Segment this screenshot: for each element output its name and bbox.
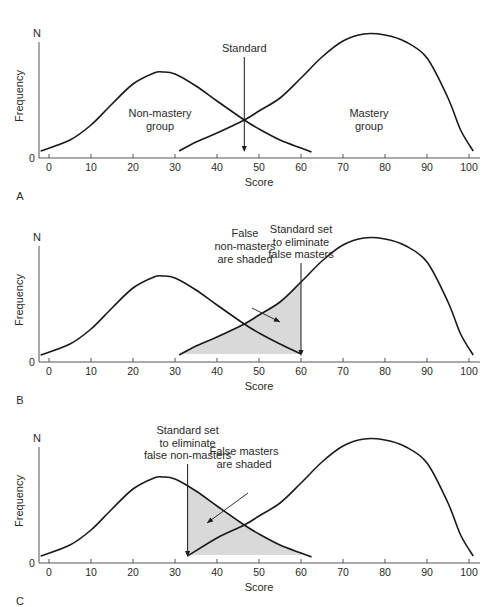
x-tick-label: 20 xyxy=(127,566,139,578)
y-axis-label: Frequency xyxy=(13,475,25,527)
standard-label: false masters xyxy=(268,248,334,260)
x-tick-label: 90 xyxy=(421,161,433,173)
x-tick-label: 10 xyxy=(85,161,97,173)
standard-label: Standard set xyxy=(270,223,332,235)
x-tick-label: 30 xyxy=(169,365,181,377)
x-tick-label: 30 xyxy=(169,161,181,173)
panel-letter: B xyxy=(16,394,23,406)
panel-letter: A xyxy=(16,190,24,202)
x-tick-label: 40 xyxy=(211,161,223,173)
x-tick-label: 80 xyxy=(379,161,391,173)
x-tick-label: 60 xyxy=(295,566,307,578)
x-tick-label: 90 xyxy=(421,365,433,377)
x-tick-label: 0 xyxy=(46,566,52,578)
x-tick-label: 20 xyxy=(127,161,139,173)
x-tick-label: 70 xyxy=(337,566,349,578)
shaded-region xyxy=(179,282,301,355)
x-tick-label: 40 xyxy=(211,365,223,377)
x-tick-label: 90 xyxy=(421,566,433,578)
x-tick-label: 70 xyxy=(337,161,349,173)
shading-label: False xyxy=(232,227,259,239)
y-top-label: N xyxy=(33,27,41,39)
x-tick-label: 100 xyxy=(460,161,478,173)
standard-arrow-icon xyxy=(242,146,247,152)
standard-label: Standard set xyxy=(156,424,218,436)
y-zero-label: 0 xyxy=(29,152,35,164)
y-zero-label: 0 xyxy=(29,557,35,569)
x-tick-label: 80 xyxy=(379,365,391,377)
series-label: Non-mastery xyxy=(129,107,192,119)
chart-panel-c: 0102030405060708090100N0FrequencyScoreCS… xyxy=(13,424,480,607)
standard-label: Standard xyxy=(222,42,267,54)
standard-label: to eliminate xyxy=(273,236,329,248)
y-zero-label: 0 xyxy=(29,356,35,368)
x-axis-label: Score xyxy=(245,380,274,392)
x-axis-label: Score xyxy=(245,176,274,188)
x-axis-label: Score xyxy=(245,581,274,593)
x-tick-label: 0 xyxy=(46,365,52,377)
y-axis-label: Frequency xyxy=(13,70,25,122)
x-tick-label: 0 xyxy=(46,161,52,173)
x-tick-label: 40 xyxy=(211,566,223,578)
x-tick-label: 50 xyxy=(253,365,265,377)
x-tick-label: 20 xyxy=(127,365,139,377)
x-tick-label: 30 xyxy=(169,566,181,578)
series-label: group xyxy=(355,120,383,132)
chart-panel-a: 0102030405060708090100N0FrequencyScoreAN… xyxy=(13,27,480,202)
x-tick-label: 60 xyxy=(295,161,307,173)
shading-label: non-masters xyxy=(214,240,276,252)
x-tick-label: 50 xyxy=(253,566,265,578)
series-label: group xyxy=(146,120,174,132)
y-top-label: N xyxy=(33,432,41,444)
x-tick-label: 100 xyxy=(460,365,478,377)
x-tick-label: 80 xyxy=(379,566,391,578)
shading-label: False masters xyxy=(209,445,279,457)
shading-label: are shaded xyxy=(217,253,272,265)
x-tick-label: 60 xyxy=(295,365,307,377)
standard-label: to eliminate xyxy=(159,437,215,449)
x-tick-label: 10 xyxy=(85,365,97,377)
x-tick-label: 70 xyxy=(337,365,349,377)
figure: 0102030405060708090100N0FrequencyScoreAN… xyxy=(0,0,490,607)
x-tick-label: 10 xyxy=(85,566,97,578)
shading-label: are shaded xyxy=(216,458,271,470)
y-axis-label: Frequency xyxy=(13,274,25,326)
chart-panel-b: 0102030405060708090100N0FrequencyScoreBS… xyxy=(13,223,480,406)
y-top-label: N xyxy=(33,231,41,243)
x-tick-label: 100 xyxy=(460,566,478,578)
panel-letter: C xyxy=(16,595,24,607)
series-label: Mastery xyxy=(349,107,389,119)
x-tick-label: 50 xyxy=(253,161,265,173)
